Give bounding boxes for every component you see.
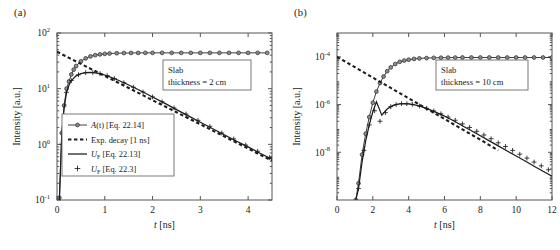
x-tick-label: 1: [102, 205, 107, 215]
marker-circle: [371, 101, 375, 105]
y-tick-label: 10-1: [35, 193, 50, 205]
marker-circle: [461, 56, 465, 60]
marker-circle: [170, 51, 174, 55]
y-axis-title: Intensity [a.u.]: [11, 87, 22, 146]
marker-circle: [389, 66, 393, 70]
marker-circle: [407, 58, 411, 62]
y-axis-title: Intensity [a.u.]: [291, 87, 302, 146]
x-axis-title: t [ns]: [154, 219, 175, 230]
marker-circle: [246, 51, 250, 55]
marker-circle: [446, 56, 450, 60]
marker-circle: [218, 51, 222, 55]
x-tick-label: 6: [442, 205, 447, 215]
panel-b-plot: 02468101210-810-610-4t [ns]Intensity [a.…: [280, 0, 560, 250]
marker-circle: [432, 56, 436, 60]
y-tick-label: 102: [37, 26, 50, 38]
y-tick-label: 100: [37, 138, 50, 150]
panel-a: (a) 0123410-1100101102t [ns]Intensity [a…: [0, 0, 280, 250]
marker-circle: [237, 51, 241, 55]
marker-circle: [505, 56, 509, 60]
x-tick-label: 2: [370, 205, 375, 215]
marker-circle: [256, 51, 260, 55]
x-tick-label: 12: [547, 205, 557, 215]
marker-circle: [478, 56, 482, 60]
marker-circle: [487, 56, 491, 60]
marker-circle: [74, 64, 78, 68]
x-tick-label: 3: [198, 205, 203, 215]
legend-symbol-circle: [76, 123, 80, 127]
marker-circle: [227, 51, 231, 55]
marker-circle: [453, 56, 457, 60]
marker-circle: [136, 51, 140, 55]
marker-circle: [541, 56, 545, 60]
panel-b: (b) 02468101210-810-610-4t [ns]Intensity…: [280, 0, 560, 250]
marker-circle: [69, 73, 73, 77]
marker-circle: [103, 52, 107, 56]
marker-circle: [439, 56, 443, 60]
y-tick-label: 10-4: [315, 50, 331, 62]
marker-circle: [412, 57, 416, 61]
marker-circle: [84, 56, 88, 60]
marker-circle: [151, 51, 155, 55]
marker-circle: [115, 51, 119, 55]
annotation-line2: thickness = 2 cm: [168, 77, 226, 87]
x-tick-label: 0: [335, 205, 340, 215]
annotation-line2: thickness = 10 cm: [441, 77, 504, 87]
marker-circle: [98, 52, 102, 56]
marker-circle: [385, 69, 389, 73]
x-tick-label: 8: [478, 205, 483, 215]
marker-circle: [208, 51, 212, 55]
marker-circle: [496, 56, 500, 60]
x-tick-label: 10: [511, 205, 521, 215]
marker-circle: [382, 75, 386, 79]
marker-circle: [122, 51, 126, 55]
marker-circle: [375, 90, 379, 94]
x-tick-label: 4: [246, 205, 251, 215]
x-tick-label: 0: [55, 205, 60, 215]
figure-container: (a) 0123410-1100101102t [ns]Intensity [a…: [0, 0, 560, 250]
marker-circle: [265, 51, 269, 55]
marker-circle: [160, 51, 164, 55]
y-tick-label: 10-6: [315, 98, 331, 110]
marker-circle: [398, 60, 402, 64]
y-tick-label: 101: [37, 82, 50, 94]
x-tick-label: 4: [406, 205, 411, 215]
marker-circle: [469, 56, 473, 60]
marker-circle: [179, 51, 183, 55]
marker-circle: [72, 68, 76, 72]
marker-circle: [418, 57, 422, 61]
marker-circle: [143, 51, 147, 55]
marker-circle: [514, 56, 518, 60]
marker-circle: [189, 51, 193, 55]
y-tick-label: 10-8: [315, 145, 330, 157]
marker-circle: [402, 59, 406, 63]
marker-circle: [532, 56, 536, 60]
annotation-line1: Slab: [168, 65, 183, 75]
marker-circle: [523, 56, 527, 60]
marker-circle: [425, 56, 429, 60]
annotation-line1: Slab: [441, 65, 456, 75]
panel-a-plot: 0123410-1100101102t [ns]Intensity [a.u.]…: [0, 0, 280, 250]
marker-circle: [93, 53, 97, 57]
x-axis-title: t [ns]: [434, 219, 455, 230]
x-tick-label: 2: [150, 205, 155, 215]
marker-circle: [198, 51, 202, 55]
marker-circle: [108, 52, 112, 56]
legend-entry-label: A(t) [Eq. 22.14]: [90, 121, 144, 130]
marker-circle: [89, 54, 93, 58]
marker-circle: [393, 62, 397, 66]
legend-entry-label: Exp. decay [1 ns]: [91, 136, 150, 145]
marker-circle: [550, 56, 554, 60]
series-uf-2213: [356, 102, 552, 200]
marker-circle: [129, 51, 133, 55]
